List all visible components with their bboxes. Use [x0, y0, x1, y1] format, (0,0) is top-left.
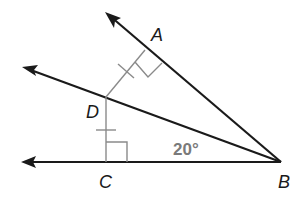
label-B: B — [278, 172, 290, 192]
angle-label-CBD: 20° — [173, 140, 199, 159]
label-A: A — [150, 25, 163, 45]
right-angle-mark-A — [135, 62, 162, 77]
label-C: C — [99, 172, 113, 192]
arrowhead-BD-icon — [22, 65, 38, 76]
ray-BD — [28, 69, 281, 162]
right-angle-mark-C — [106, 142, 127, 162]
label-D: D — [86, 102, 99, 122]
segment-DA — [106, 50, 145, 97]
geometry-diagram: A D C B 20° — [0, 0, 303, 206]
arrowhead-BA-icon — [105, 12, 121, 28]
